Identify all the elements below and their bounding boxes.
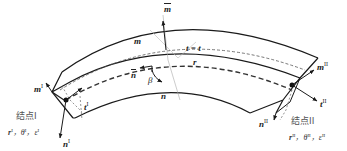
label-n-II: nII: [259, 118, 268, 129]
left-end-face: [52, 72, 75, 118]
vector-m-I: [46, 83, 52, 92]
label-n: n: [161, 92, 166, 101]
vector-n-bar: [140, 66, 152, 68]
label-t-II: tII: [320, 98, 327, 109]
vector-t-II: [292, 85, 317, 101]
beam-inner-top-edge: [70, 54, 300, 82]
node-I-title: 结点I: [16, 112, 37, 121]
right-end-face: [250, 58, 318, 113]
label-t-eq-tbar: t = t: [186, 44, 201, 53]
label-t-I: tI: [84, 101, 89, 112]
node-I-variables: rI，θI，εI: [8, 128, 39, 137]
label-r: r: [193, 58, 197, 67]
node-II-title: 结点II: [291, 117, 314, 126]
vector-m-II: [292, 70, 314, 85]
label-m-bar: m: [164, 5, 171, 14]
label-n-I: nI: [63, 138, 70, 149]
curved-beam-diagram: [0, 0, 347, 151]
beta-angle-arc: [152, 70, 162, 82]
label-n-bar: n: [131, 71, 136, 80]
node-II-variables: rII，θII，εII: [289, 133, 325, 142]
label-beta: β: [148, 76, 152, 85]
vector-t-I: [66, 88, 82, 100]
label-m: m: [134, 37, 141, 46]
label-m-II: mII: [317, 61, 328, 72]
vector-n-II: [274, 113, 276, 120]
centroid-axis-dashed: [66, 66, 292, 100]
label-m-I: mI: [34, 83, 43, 94]
